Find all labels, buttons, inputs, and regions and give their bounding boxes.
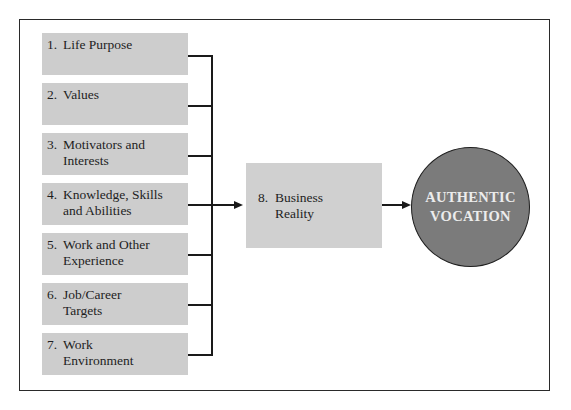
input-number: 7. [47, 337, 63, 353]
input-box-career-targets: 6.Job/Career Targets [42, 283, 188, 325]
outcome-label-line1: AUTHENTIC [425, 188, 516, 207]
input-label: Knowledge, Skills [63, 187, 184, 203]
input-number: 3. [47, 137, 63, 153]
input-box-experience: 5.Work and Other Experience [42, 233, 188, 275]
connector-line-6 [188, 304, 213, 306]
arrowhead-icon [234, 201, 243, 209]
input-number: 6. [47, 287, 63, 303]
connector-line-2 [188, 105, 213, 107]
connector-line-7 [188, 354, 213, 356]
input-number: 4. [47, 187, 63, 203]
connector-line-1 [188, 55, 213, 57]
input-label: Life Purpose [63, 37, 184, 53]
arrowhead-icon [402, 201, 411, 209]
input-label: Job/Career [63, 287, 184, 303]
connector-line-5 [188, 254, 213, 256]
authentic-vocation-circle: AUTHENTIC VOCATION [411, 147, 530, 267]
input-number: 5. [47, 237, 63, 253]
input-label: Motivators and [63, 137, 184, 153]
outcome-label-line2: VOCATION [430, 207, 511, 226]
filter-label: Business [275, 190, 323, 206]
input-box-knowledge: 4.Knowledge, Skills and Abilities [42, 183, 188, 225]
input-label-line2: Environment [63, 353, 184, 369]
arrow-line-to-authentic-vocation [382, 204, 404, 206]
filter-number: 8. [258, 190, 275, 206]
input-label: Work [63, 337, 184, 353]
input-label: Work and Other [63, 237, 184, 253]
arrow-line-to-business-reality [188, 204, 236, 206]
input-box-values: 2.Values [42, 83, 188, 125]
input-box-motivators: 3.Motivators and Interests [42, 133, 188, 175]
input-label-line2: Experience [63, 253, 184, 269]
input-label-line2: Interests [63, 153, 184, 169]
input-number: 1. [47, 37, 63, 53]
input-label-line2: and Abilities [63, 203, 184, 219]
filter-label-line2: Reality [275, 206, 314, 222]
connector-line-3 [188, 155, 213, 157]
input-box-work-environment: 7.Work Environment [42, 333, 188, 375]
input-label-line2: Targets [63, 303, 184, 319]
input-label: Values [63, 87, 184, 103]
input-box-life-purpose: 1.Life Purpose [42, 33, 188, 75]
input-number: 2. [47, 87, 63, 103]
business-reality-box: 8.Business Reality [246, 163, 382, 248]
